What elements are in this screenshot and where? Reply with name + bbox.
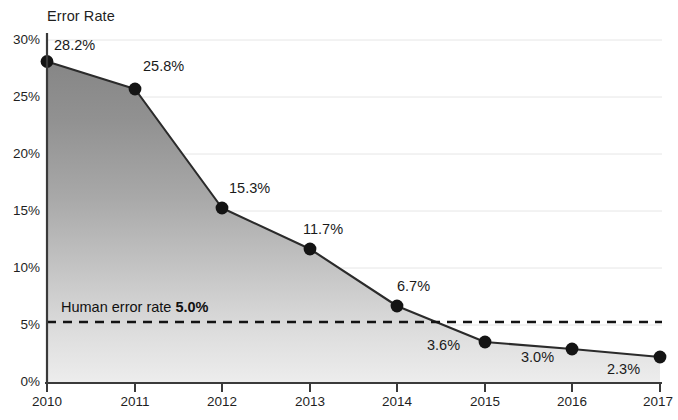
data-label-2010: 28.2% — [54, 37, 95, 53]
y-tick-label-30: 30% — [0, 32, 40, 47]
x-tick-label-2015: 2015 — [455, 394, 515, 409]
data-point-2017 — [654, 351, 667, 364]
data-point-2011 — [129, 83, 142, 96]
y-tick-label-25: 25% — [0, 89, 40, 104]
human-error-rate-annotation: Human error rate 5.0% — [61, 299, 209, 315]
y-tick-label-5: 5% — [0, 317, 40, 332]
x-tick-label-2012: 2012 — [192, 394, 252, 409]
data-label-2013: 11.7% — [303, 221, 343, 237]
chart-canvas — [0, 0, 678, 420]
y-tick-label-20: 20% — [0, 146, 40, 161]
y-tick-label-0: 0% — [0, 374, 40, 389]
y-tick-label-10: 10% — [0, 260, 40, 275]
chart-axis-title: Error Rate — [47, 8, 115, 24]
data-point-2015 — [479, 336, 492, 349]
data-point-2013 — [304, 243, 317, 256]
data-label-2016: 3.0% — [521, 349, 554, 365]
data-label-2014: 6.7% — [397, 278, 430, 294]
y-tick-label-15: 15% — [0, 203, 40, 218]
data-label-2011: 25.8% — [143, 58, 184, 74]
data-point-2016 — [566, 343, 579, 356]
x-tick-label-2014: 2014 — [367, 394, 427, 409]
data-label-2012: 15.3% — [229, 180, 270, 196]
area-fill — [47, 62, 660, 384]
human-error-rate-text: Human error rate — [61, 299, 171, 315]
x-tick-label-2013: 2013 — [280, 394, 340, 409]
human-error-rate-value: 5.0% — [175, 299, 208, 315]
data-point-2014 — [391, 300, 404, 313]
x-tick-label-2011: 2011 — [105, 394, 165, 409]
data-label-2017: 2.3% — [607, 361, 640, 377]
x-tick-label-2016: 2016 — [542, 394, 602, 409]
x-axis — [45, 383, 662, 392]
x-tick-label-2010: 2010 — [17, 394, 77, 409]
data-label-2015: 3.6% — [427, 337, 460, 353]
data-point-2012 — [216, 202, 229, 215]
error-rate-chart: Error Rate 30% 25% 20% 15% 10% 5% 0% 201… — [0, 0, 678, 420]
x-tick-label-2017: 2017 — [628, 394, 678, 409]
